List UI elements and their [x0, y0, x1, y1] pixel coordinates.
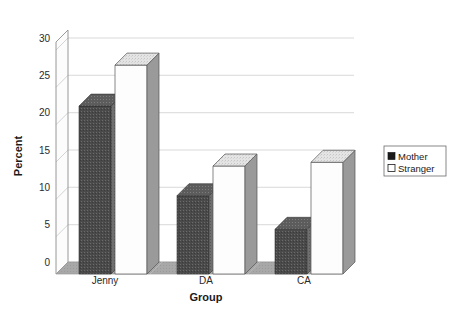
x-tick-label-ca: CA	[297, 275, 311, 286]
x-tick-label-jenny: Jenny	[92, 275, 119, 286]
legend-label-mother: Mother	[398, 151, 428, 162]
legend-label-stranger: Stranger	[398, 163, 434, 174]
bar-jenny-stranger[interactable]	[115, 53, 159, 274]
x-axis-title: Group	[190, 291, 223, 303]
legend[interactable]: Mother Stranger	[384, 146, 446, 176]
bar-da-stranger[interactable]	[213, 154, 257, 274]
y-axis-title: Percent	[12, 135, 24, 176]
y-tick-label: 0	[44, 257, 50, 268]
bar-chart-3d: 30 25 20 15 10 5 0 Percent Jenny DA CA G…	[0, 0, 455, 316]
y-tick-label: 10	[39, 182, 51, 193]
chart-container: 30 25 20 15 10 5 0 Percent Jenny DA CA G…	[0, 0, 455, 316]
legend-item-stranger[interactable]: Stranger	[388, 163, 434, 174]
y-tick-label: 15	[39, 145, 51, 156]
y-tick-label: 30	[39, 33, 51, 44]
bar-ca-stranger[interactable]	[311, 150, 355, 274]
y-tick-label: 25	[39, 70, 51, 81]
legend-swatch-mother-icon	[388, 153, 395, 160]
legend-swatch-stranger-icon	[388, 165, 395, 172]
y-tick-label: 5	[44, 219, 50, 230]
x-tick-label-da: DA	[199, 275, 213, 286]
y-tick-label: 20	[39, 107, 51, 118]
